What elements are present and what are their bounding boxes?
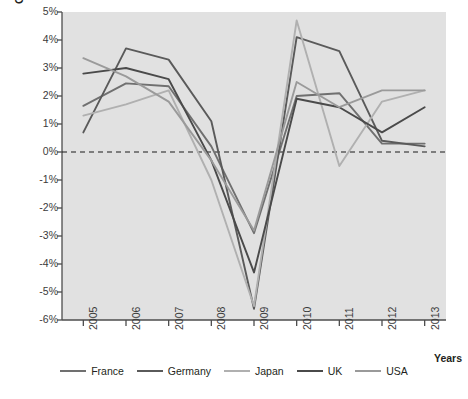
- legend-item-japan[interactable]: Japan: [224, 366, 284, 377]
- legend-swatch-germany: [137, 370, 163, 372]
- x-axis-tick-label: 2013: [430, 307, 441, 330]
- x-axis-tick-label: 2008: [216, 307, 227, 330]
- x-axis-tick-label: 2006: [131, 307, 142, 330]
- legend-label: UK: [328, 366, 343, 377]
- plot-background: [62, 12, 446, 320]
- legend-label: France: [91, 366, 124, 377]
- legend-swatch-japan: [224, 370, 250, 372]
- legend-item-germany[interactable]: Germany: [137, 366, 211, 377]
- chart-legend: FranceGermanyJapanUKUSA: [0, 366, 468, 377]
- legend-swatch-uk: [297, 370, 323, 372]
- plot-area: [0, 0, 468, 399]
- x-axis-tick-label: 2007: [174, 307, 185, 330]
- x-axis-tick-label: 2005: [88, 307, 99, 330]
- legend-label: Germany: [168, 366, 211, 377]
- x-axis-title: Years: [434, 352, 462, 364]
- legend-label: USA: [386, 366, 408, 377]
- legend-item-france[interactable]: France: [60, 366, 124, 377]
- legend-item-usa[interactable]: USA: [355, 366, 408, 377]
- x-axis-tick-label: 2012: [387, 307, 398, 330]
- gdp-growth-line-chart: GDP growth (%) 5%4%3%2%1%0%-1%-2%-3%-4%-…: [0, 0, 468, 399]
- x-axis-tick-label: 2009: [259, 307, 270, 330]
- x-axis-tick-label: 2010: [302, 307, 313, 330]
- legend-swatch-france: [60, 370, 86, 372]
- legend-label: Japan: [255, 366, 284, 377]
- legend-item-uk[interactable]: UK: [297, 366, 343, 377]
- legend-swatch-usa: [355, 370, 381, 372]
- x-axis-tick-label: 2011: [344, 307, 355, 330]
